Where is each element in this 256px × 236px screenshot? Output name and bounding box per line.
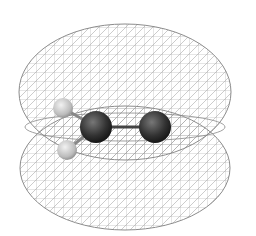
carbon-atom [80, 111, 112, 143]
hydrogen-atom [53, 98, 73, 118]
hydrogen-atom [57, 140, 77, 160]
oxygen-atom [139, 111, 171, 143]
upper-lobe [19, 24, 231, 160]
orbital-figure [0, 0, 256, 236]
